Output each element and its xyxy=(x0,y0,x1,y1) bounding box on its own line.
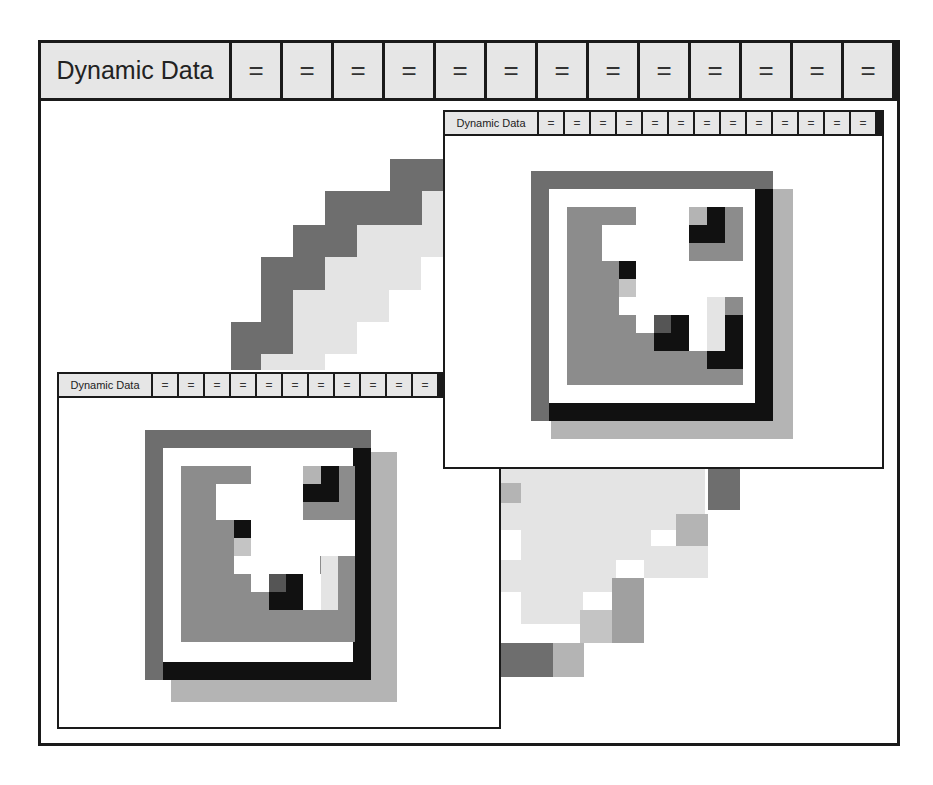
menu-button-6[interactable]: = xyxy=(487,43,535,98)
menu-button-5[interactable]: = xyxy=(643,112,667,134)
menu-button-9[interactable]: = xyxy=(361,374,385,396)
menu-button-4[interactable]: = xyxy=(617,112,641,134)
menu-button-6[interactable]: = xyxy=(283,374,307,396)
menu-button-5[interactable]: = xyxy=(257,374,281,396)
window-top-right: Dynamic Data = = = = = = = = = = = = = xyxy=(443,110,884,469)
menu-button-4[interactable]: = xyxy=(231,374,255,396)
menu-button-10[interactable]: = xyxy=(691,43,739,98)
menu-button-12[interactable]: = xyxy=(825,112,849,134)
menu-button-3[interactable]: = xyxy=(334,43,382,98)
menu-button-13[interactable]: = xyxy=(844,43,892,98)
window-title: Dynamic Data xyxy=(59,374,151,396)
titlebar-bottom-left: Dynamic Data = = = = = = = = = = = xyxy=(59,374,499,398)
menu-button-2[interactable]: = xyxy=(283,43,331,98)
menu-button-9[interactable]: = xyxy=(747,112,771,134)
main-titlebar: Dynamic Data = = = = = = = = = = = = = xyxy=(41,43,897,101)
content-bottom-left xyxy=(59,398,499,727)
menu-button-12[interactable]: = xyxy=(793,43,841,98)
menu-button-6[interactable]: = xyxy=(669,112,693,134)
menu-button-11[interactable]: = xyxy=(799,112,823,134)
menu-button-7[interactable]: = xyxy=(695,112,719,134)
menu-button-13[interactable]: = xyxy=(851,112,875,134)
menu-button-7[interactable]: = xyxy=(538,43,586,98)
window-title: Dynamic Data xyxy=(445,112,537,134)
menu-button-1[interactable]: = xyxy=(232,43,280,98)
menu-button-1[interactable]: = xyxy=(153,374,177,396)
menu-button-2[interactable]: = xyxy=(179,374,203,396)
content-top-right xyxy=(445,136,882,467)
menu-button-10[interactable]: = xyxy=(387,374,411,396)
pixel-art-icon xyxy=(531,171,791,441)
menu-button-8[interactable]: = xyxy=(721,112,745,134)
pixel-art-icon xyxy=(145,430,395,700)
window-title: Dynamic Data xyxy=(41,43,229,98)
menu-button-11[interactable]: = xyxy=(742,43,790,98)
menu-button-4[interactable]: = xyxy=(385,43,433,98)
menu-button-8[interactable]: = xyxy=(589,43,637,98)
menu-button-5[interactable]: = xyxy=(436,43,484,98)
menu-button-7[interactable]: = xyxy=(309,374,333,396)
titlebar-top-right: Dynamic Data = = = = = = = = = = = = = xyxy=(445,112,882,136)
window-bottom-left: Dynamic Data = = = = = = = = = = = xyxy=(57,372,501,729)
menu-button-8[interactable]: = xyxy=(335,374,359,396)
menu-button-1[interactable]: = xyxy=(539,112,563,134)
menu-button-11[interactable]: = xyxy=(413,374,437,396)
menu-button-10[interactable]: = xyxy=(773,112,797,134)
menu-button-9[interactable]: = xyxy=(640,43,688,98)
menu-button-2[interactable]: = xyxy=(565,112,589,134)
menu-button-3[interactable]: = xyxy=(205,374,229,396)
menu-button-3[interactable]: = xyxy=(591,112,615,134)
